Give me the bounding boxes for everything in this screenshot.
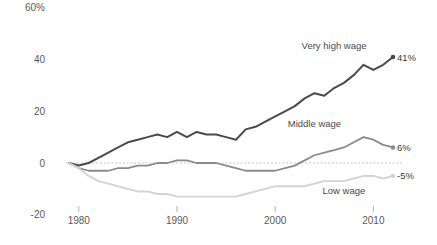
end-marker-very-high-wage [391, 55, 396, 60]
x-tick-label: 1980 [68, 215, 91, 226]
end-value-low-wage: -5% [397, 170, 414, 181]
y-tick-label: -20 [31, 209, 46, 220]
chart-canvas: 60%40200-20 1980199020002010 Very high w… [0, 0, 437, 245]
series-end-markers [391, 55, 396, 179]
end-value-middle-wage: 6% [397, 142, 411, 153]
end-marker-middle-wage [391, 145, 396, 150]
y-tick-label: 60% [25, 2, 45, 13]
end-value-very-high-wage: 41% [397, 52, 417, 63]
series-line-middle-wage [69, 137, 393, 171]
y-tick-label: 40 [34, 54, 46, 65]
series-line-very-high-wage [69, 57, 393, 166]
x-tick-label: 2010 [362, 215, 385, 226]
series-label-middle-wage: Middle wage [288, 118, 341, 129]
y-tick-label: 20 [34, 106, 46, 117]
y-axis-ticks: 60%40200-20 [25, 2, 45, 220]
series-end-value-labels: 41%6%-5% [397, 52, 417, 182]
series-label-low-wage: Low wage [323, 185, 366, 196]
x-tick-label: 1990 [166, 215, 189, 226]
series-label-very-high-wage: Very high wage [302, 40, 367, 51]
x-tick-label: 2000 [264, 215, 287, 226]
series-name-labels: Very high wageMiddle wageLow wage [288, 40, 367, 196]
wage-growth-line-chart: 60%40200-20 1980199020002010 Very high w… [0, 0, 437, 245]
y-tick-label: 0 [39, 158, 45, 169]
x-axis-ticks: 1980199020002010 [68, 206, 385, 226]
end-marker-low-wage [391, 174, 396, 179]
series-lines [69, 57, 393, 197]
